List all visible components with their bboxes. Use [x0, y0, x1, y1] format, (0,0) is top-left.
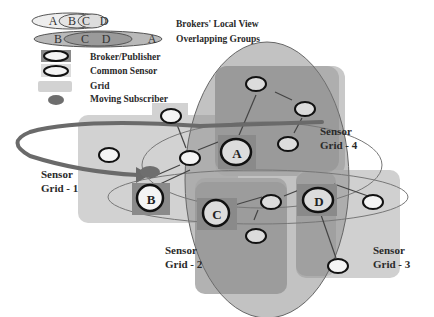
broker-d-label: D	[314, 194, 323, 209]
glyph-letter-b: B	[54, 32, 62, 46]
sensor-node[interactable]	[363, 195, 383, 209]
legend-label-brokers-local-view: Brokers' Local View	[176, 19, 259, 29]
sensor-node[interactable]	[295, 102, 315, 116]
sensor-node[interactable]	[246, 229, 266, 243]
broker-b-label: B	[147, 192, 156, 207]
broker-b[interactable]: B	[132, 183, 170, 215]
glyph-letter-d: D	[100, 14, 109, 28]
legend-broker-publisher-icon	[41, 50, 71, 62]
sensor-node[interactable]	[99, 148, 119, 162]
legend-overlapping-groups-icon: B C D A	[34, 31, 162, 47]
sensor-node[interactable]	[246, 77, 266, 91]
svg-text:Grid - 4: Grid - 4	[320, 139, 358, 151]
legend-label-moving-subscriber: Moving Subscriber	[90, 94, 169, 104]
broker-d[interactable]: D	[297, 184, 337, 216]
svg-text:Sensor: Sensor	[320, 125, 352, 137]
legend-label-common-sensor: Common Sensor	[90, 66, 158, 76]
broker-a[interactable]: A	[218, 135, 256, 169]
svg-text:Sensor: Sensor	[41, 168, 73, 180]
broker-c-label: C	[212, 207, 221, 222]
grid-label-1: Sensor Grid - 1	[41, 168, 78, 194]
svg-text:Grid - 1: Grid - 1	[41, 182, 78, 194]
svg-text:Sensor: Sensor	[165, 244, 197, 256]
legend-label-overlapping-groups: Overlapping Groups	[176, 34, 260, 44]
sensor-node[interactable]	[328, 259, 348, 273]
broker-a-label: A	[232, 146, 242, 161]
svg-text:Grid - 3: Grid - 3	[373, 258, 411, 270]
legend-grid-icon	[38, 81, 72, 92]
glyph-letter-b: B	[68, 14, 76, 28]
glyph-letter-a: A	[49, 14, 58, 28]
glyph-letter-a: A	[148, 32, 157, 46]
sensor-node[interactable]	[161, 109, 181, 123]
sensor-node[interactable]	[278, 137, 298, 151]
glyph-letter-c: C	[81, 32, 89, 46]
legend-label-grid: Grid	[90, 81, 110, 91]
glyph-letter-d: D	[102, 32, 111, 46]
glyph-letter-c: C	[82, 14, 90, 28]
svg-text:Grid - 2: Grid - 2	[165, 258, 203, 270]
legend-moving-subscriber-icon	[48, 95, 64, 105]
sensor-node[interactable]	[261, 195, 281, 209]
legend-label-broker-publisher: Broker/Publisher	[90, 52, 161, 62]
legend-common-sensor-icon	[41, 64, 71, 77]
sensor-node[interactable]	[180, 151, 200, 165]
moving-subscriber[interactable]	[140, 166, 160, 178]
sensor-grid-diagram: A B C D Brokers' Local View B C D A Over…	[0, 0, 434, 317]
broker-c[interactable]: C	[197, 198, 237, 230]
svg-text:Sensor: Sensor	[373, 244, 405, 256]
legend-brokers-local-view-icon: A B C D	[32, 13, 109, 29]
